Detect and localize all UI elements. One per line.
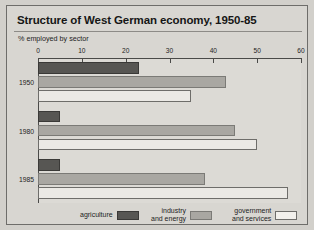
legend-item[interactable]: industry and energy <box>151 206 212 224</box>
x-tick-label: 20 <box>122 47 129 54</box>
bar-agriculture-1980 <box>38 111 60 123</box>
legend-label: industry and energy <box>151 207 186 222</box>
y-tick-label: 1980 <box>14 127 34 134</box>
y-tick-label: 1950 <box>14 79 34 86</box>
x-tick-label: 10 <box>78 47 85 54</box>
legend-item[interactable]: government and services <box>232 206 297 224</box>
chart-subtitle: % employed by sector <box>18 34 89 43</box>
bar-agriculture-1950 <box>38 62 139 74</box>
x-tick-label: 60 <box>297 47 304 54</box>
chart-legend: agricultureindustry and energygovernment… <box>14 206 302 224</box>
legend-swatch-industry <box>190 211 212 220</box>
chart-title: Structure of West German economy, 1950-8… <box>17 14 257 26</box>
bar-government-1985 <box>38 187 288 199</box>
x-tick-label: 50 <box>253 47 260 54</box>
bar-industry-1950 <box>38 76 226 88</box>
legend-item[interactable]: agriculture <box>80 206 139 224</box>
bar-government-1950 <box>38 90 191 102</box>
title-divider <box>14 31 302 32</box>
x-tick-mark <box>257 58 258 63</box>
legend-label: government and services <box>232 207 271 222</box>
bar-government-1980 <box>38 139 257 151</box>
bar-industry-1980 <box>38 125 235 137</box>
chart-figure: Structure of West German economy, 1950-8… <box>0 0 314 230</box>
x-tick-mark <box>170 58 171 63</box>
chart-card: Structure of West German economy, 1950-8… <box>6 5 308 225</box>
x-tick-label: 40 <box>210 47 217 54</box>
x-tick-mark <box>301 58 302 63</box>
x-tick-label: 30 <box>166 47 173 54</box>
x-tick-mark <box>213 58 214 63</box>
y-tick-label: 1985 <box>14 175 34 182</box>
bar-agriculture-1985 <box>38 159 60 171</box>
legend-swatch-agriculture <box>117 211 139 220</box>
x-tick-label: 0 <box>36 47 40 54</box>
plot-area: 0102030405060 195019801985 <box>38 58 301 203</box>
legend-label: agriculture <box>80 211 113 219</box>
legend-swatch-government <box>275 211 297 220</box>
bar-industry-1985 <box>38 173 205 185</box>
